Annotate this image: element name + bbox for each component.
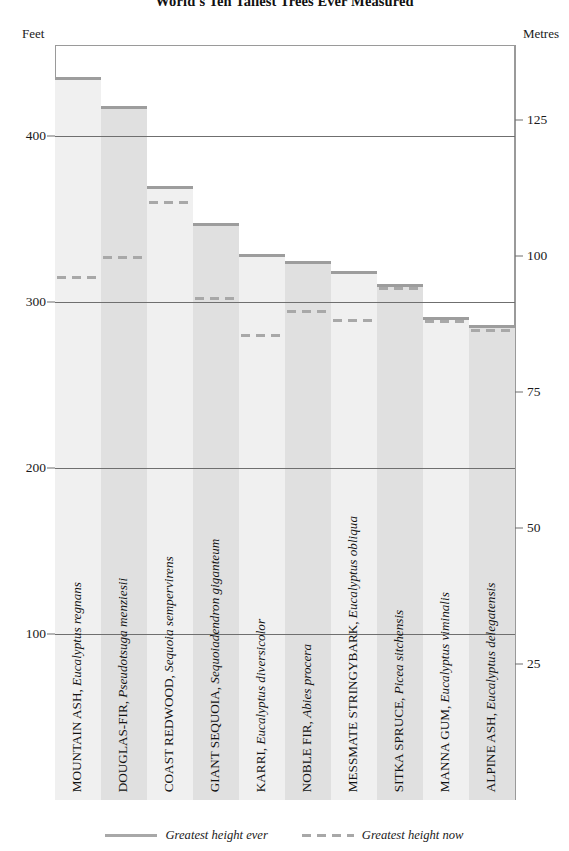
left-tick-mark bbox=[47, 302, 55, 303]
greatest-height-now-marker bbox=[425, 320, 467, 323]
greatest-height-ever-marker bbox=[331, 271, 377, 274]
bar-category-label: COAST REDWOOD, Sequoia sempervirens bbox=[162, 556, 175, 792]
greatest-height-now-marker bbox=[57, 276, 99, 279]
right-tick-mark bbox=[515, 255, 523, 256]
gridline bbox=[55, 136, 515, 137]
legend-item-ever: Greatest height ever bbox=[105, 828, 267, 843]
species-common-name: KARRI, bbox=[253, 744, 268, 792]
bar-category-label: SITKA SPRUCE, Picea sitchensis bbox=[392, 610, 405, 792]
greatest-height-ever-marker bbox=[101, 106, 147, 109]
species-scientific-name: Eucalyptus diversicolor bbox=[253, 619, 268, 745]
gridline bbox=[55, 302, 515, 303]
bar-category-label: NOBLE FIR, Abies procera bbox=[300, 644, 313, 792]
legend-label-ever: Greatest height ever bbox=[165, 828, 267, 843]
right-tick-mark bbox=[515, 527, 523, 528]
species-scientific-name: Eucalyptus viminalis bbox=[437, 592, 452, 702]
species-common-name: MOUNTAIN ASH, bbox=[69, 686, 84, 792]
bar-category-label: MESSMATE STRINGYBARK, Eucalyptus obliqua bbox=[346, 516, 359, 792]
bar-category-label: ALPINE ASH, Eucalyptus delegatensis bbox=[484, 582, 497, 792]
greatest-height-ever-marker bbox=[193, 223, 239, 226]
right-axis-line bbox=[515, 45, 516, 800]
dashed-line-swatch-icon bbox=[302, 834, 354, 837]
left-axis-tick-label: 200 bbox=[26, 460, 46, 476]
gridline bbox=[55, 468, 515, 469]
bar-category-label: MANNA GUM, Eucalyptus viminalis bbox=[438, 592, 451, 792]
species-common-name: MESSMATE STRINGYBARK, bbox=[345, 618, 360, 792]
solid-line-swatch-icon bbox=[105, 834, 157, 837]
species-common-name: NOBLE FIR, bbox=[299, 718, 314, 792]
species-common-name: ALPINE ASH, bbox=[483, 710, 498, 792]
species-scientific-name: Sequoia sempervirens bbox=[161, 556, 176, 672]
bar-category-label: DOUGLAS-FIR, Pseudotsuga menziesii bbox=[116, 578, 129, 792]
left-tick-mark bbox=[47, 468, 55, 469]
bar-category-label: KARRI, Eucalyptus diversicolor bbox=[254, 619, 267, 792]
species-scientific-name: Eucalyptus delegatensis bbox=[483, 582, 498, 709]
species-common-name: GIANT SEQUOIA, bbox=[207, 683, 222, 792]
greatest-height-now-marker bbox=[149, 201, 191, 204]
species-common-name: MANNA GUM, bbox=[437, 702, 452, 792]
greatest-height-now-marker bbox=[195, 297, 237, 300]
species-common-name: SITKA SPRUCE, bbox=[391, 694, 406, 792]
right-axis-tick-label: 125 bbox=[527, 112, 547, 128]
bar-category-label: GIANT SEQUOIA, Sequoiadendron giganteum bbox=[208, 539, 221, 792]
left-axis-unit-label: Feet bbox=[22, 26, 44, 42]
left-tick-mark bbox=[47, 634, 55, 635]
species-common-name: DOUGLAS-FIR, bbox=[115, 697, 130, 792]
species-scientific-name: Eucalyptus regnans bbox=[69, 582, 84, 686]
plot-area: 100200300400255075100125 MOUNTAIN ASH, E… bbox=[55, 45, 515, 800]
greatest-height-now-marker bbox=[333, 319, 375, 322]
right-axis-tick-label: 75 bbox=[527, 384, 541, 400]
chart-root: World's Ten Tallest Trees Ever Measured … bbox=[0, 0, 569, 851]
greatest-height-now-marker bbox=[103, 256, 145, 259]
species-scientific-name: Picea sitchensis bbox=[391, 610, 406, 695]
greatest-height-ever-marker bbox=[285, 261, 331, 264]
species-scientific-name: Eucalyptus obliqua bbox=[345, 516, 360, 618]
right-tick-mark bbox=[515, 119, 523, 120]
right-axis-unit-label: Metres bbox=[523, 26, 559, 42]
species-scientific-name: Sequoiadendron giganteum bbox=[207, 539, 222, 684]
left-axis-tick-label: 400 bbox=[26, 128, 46, 144]
left-tick-mark bbox=[47, 136, 55, 137]
greatest-height-now-marker bbox=[241, 334, 283, 337]
right-tick-mark bbox=[515, 663, 523, 664]
legend-item-now: Greatest height now bbox=[302, 828, 464, 843]
species-scientific-name: Abies procera bbox=[299, 644, 314, 718]
bar-category-label: MOUNTAIN ASH, Eucalyptus regnans bbox=[70, 582, 83, 792]
right-axis-tick-label: 100 bbox=[527, 248, 547, 264]
left-axis-tick-label: 300 bbox=[26, 294, 46, 310]
species-scientific-name: Pseudotsuga menziesii bbox=[115, 578, 130, 698]
chart-legend: Greatest height ever Greatest height now bbox=[0, 828, 569, 843]
right-axis-tick-label: 50 bbox=[527, 520, 541, 536]
greatest-height-now-marker bbox=[379, 287, 421, 290]
legend-label-now: Greatest height now bbox=[362, 828, 464, 843]
greatest-height-ever-marker bbox=[239, 254, 285, 257]
greatest-height-now-marker bbox=[471, 329, 513, 332]
species-common-name: COAST REDWOOD, bbox=[161, 672, 176, 792]
left-axis-tick-label: 100 bbox=[26, 626, 46, 642]
right-axis-tick-label: 25 bbox=[527, 656, 541, 672]
greatest-height-ever-marker bbox=[55, 77, 101, 80]
right-tick-mark bbox=[515, 391, 523, 392]
greatest-height-now-marker bbox=[287, 310, 329, 313]
chart-title: World's Ten Tallest Trees Ever Measured bbox=[0, 0, 569, 10]
greatest-height-ever-marker bbox=[147, 186, 193, 189]
